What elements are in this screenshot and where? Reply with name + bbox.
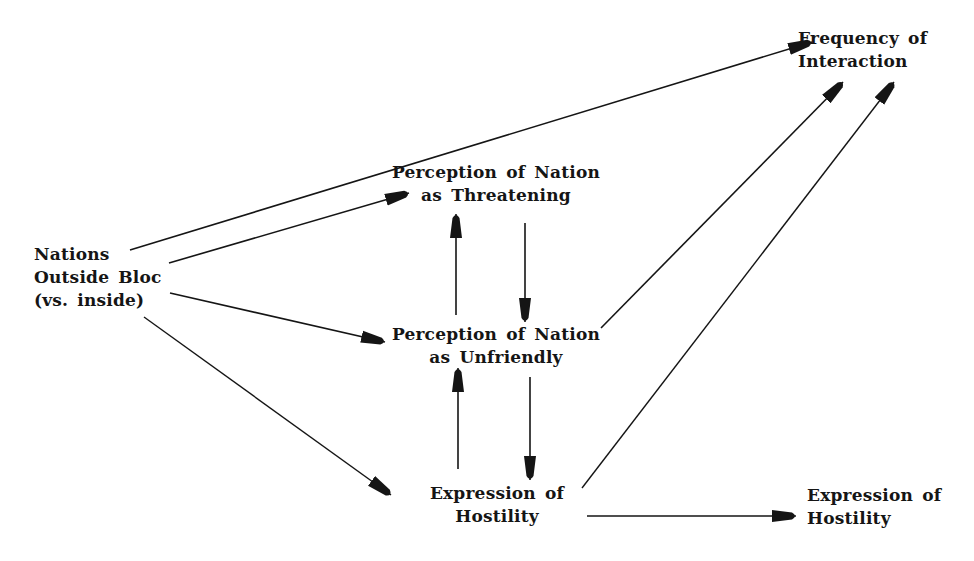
edge-unfriendly-to-frequency [601, 82, 843, 328]
node-label-line: Expression of [426, 482, 568, 505]
edge-expression-to-frequency [582, 82, 894, 488]
node-label-line: as Threatening [388, 184, 604, 207]
node-label-line: Interaction [798, 50, 927, 73]
node-label-line: Hostility [426, 505, 568, 528]
node-label-line: Perception of Nation [388, 161, 604, 184]
node-expression-hostility-mid: Expression of Hostility [426, 482, 568, 528]
node-label-line: Frequency of [798, 27, 927, 50]
node-label-line: (vs. inside) [34, 289, 162, 312]
edge-nations-to-threatening [169, 193, 409, 263]
node-label-line: as Unfriendly [388, 346, 604, 369]
node-label-line: Perception of Nation [388, 323, 604, 346]
node-frequency-interaction: Frequency of Interaction [798, 27, 927, 73]
edge-nations-to-frequency [130, 42, 812, 250]
edge-nations-to-unfriendly [170, 293, 385, 342]
node-expression-hostility-right: Expression of Hostility [807, 484, 941, 530]
node-perception-unfriendly: Perception of Nation as Unfriendly [388, 323, 604, 369]
node-label-line: Hostility [807, 507, 941, 530]
node-label-line: Expression of [807, 484, 941, 507]
node-nations-outside-bloc: Nations Outside Bloc (vs. inside) [34, 243, 162, 312]
edge-nations-to-expression-mid [144, 317, 391, 495]
node-label-line: Outside Bloc [34, 266, 162, 289]
node-perception-threatening: Perception of Nation as Threatening [388, 161, 604, 207]
path-diagram: Nations Outside Bloc (vs. inside) Percep… [0, 0, 974, 561]
node-label-line: Nations [34, 243, 162, 266]
